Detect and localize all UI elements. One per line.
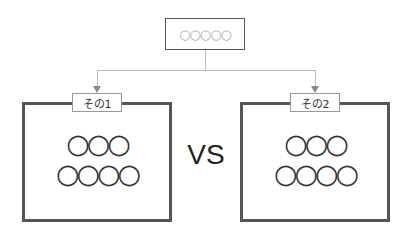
arrow-down-icon (93, 86, 101, 93)
circles-row-2: ○○○○ (243, 160, 387, 188)
circles-row-2: ○○○○ (25, 160, 169, 188)
top-node: ○○○○○ (165, 18, 245, 50)
connector-horizontal (97, 70, 316, 71)
top-node-text: ○○○○○ (179, 27, 231, 42)
arrow-down-icon (311, 86, 319, 93)
connector-vertical (205, 50, 206, 70)
panel-right: ○○○ ○○○○ (240, 102, 390, 222)
panel-left-label: その1 (72, 93, 122, 112)
circles-row-1: ○○○ (243, 130, 387, 158)
connector-left-drop (97, 70, 98, 87)
connector-right-drop (315, 70, 316, 87)
panel-right-label: その2 (290, 93, 340, 112)
circles-row-1: ○○○ (25, 130, 169, 158)
panel-left: ○○○ ○○○○ (22, 102, 172, 222)
vs-text: VS (186, 139, 226, 171)
